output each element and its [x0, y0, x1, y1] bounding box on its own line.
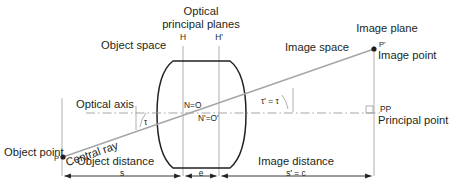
principal-point-abbrev: PP — [380, 105, 391, 114]
principal-point-label: Principal point — [378, 114, 448, 127]
angle-tau-prime-label: τ' = τ — [261, 97, 279, 106]
optical-axis-label: Optical axis — [76, 98, 134, 111]
plane-label-h-prime: H' — [215, 33, 223, 42]
image-distance-label: Image distance — [258, 155, 334, 168]
nodal-point-rear-label: N'=O' — [198, 114, 219, 123]
object-distance-symbol: s — [120, 169, 124, 178]
image-distance-symbol: s' = c — [286, 169, 306, 178]
optical-diagram-canvas: Optical principal planes H H' Object spa… — [0, 0, 456, 191]
image-space-label: Image space — [285, 41, 349, 54]
object-point-marker: P — [54, 155, 59, 164]
right-angle-marker — [366, 106, 373, 113]
image-point-label: Image point — [378, 49, 436, 62]
object-distance-label: Object distance — [77, 155, 154, 168]
principal-planes-title-line1: Optical — [184, 5, 219, 18]
principal-planes-title-line2: principal planes — [162, 18, 240, 31]
image-plane-label: Image plane — [356, 22, 418, 35]
image-point-dot — [371, 46, 376, 51]
angle-tau-label: τ — [144, 118, 147, 127]
lens-thickness-symbol: e — [199, 169, 204, 178]
plane-label-h: H — [180, 33, 186, 42]
object-space-label: Object space — [101, 39, 166, 52]
nodal-point-front-label: N=O — [184, 101, 201, 110]
